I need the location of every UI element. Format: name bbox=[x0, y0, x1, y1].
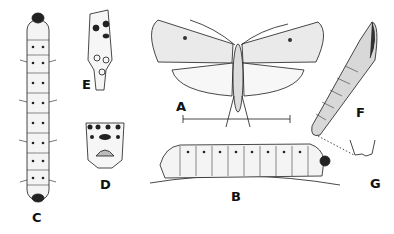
label-d: D bbox=[100, 178, 111, 191]
cremaster-detail-drawing bbox=[350, 140, 375, 156]
label-c: C bbox=[32, 211, 42, 224]
label-a: A bbox=[176, 100, 186, 113]
larva-dorsal-drawing bbox=[19, 13, 57, 202]
moth-life-stage-figure: A B C D E F G bbox=[0, 0, 394, 234]
label-e: E bbox=[82, 78, 91, 91]
label-b: B bbox=[231, 190, 241, 203]
label-g: G bbox=[370, 177, 381, 190]
larva-segment-detail-drawing bbox=[88, 10, 112, 90]
label-f: F bbox=[356, 106, 365, 119]
larva-lateral-drawing bbox=[150, 144, 340, 185]
illustration-canvas bbox=[0, 0, 394, 234]
larva-posterior-detail-drawing bbox=[86, 123, 124, 168]
